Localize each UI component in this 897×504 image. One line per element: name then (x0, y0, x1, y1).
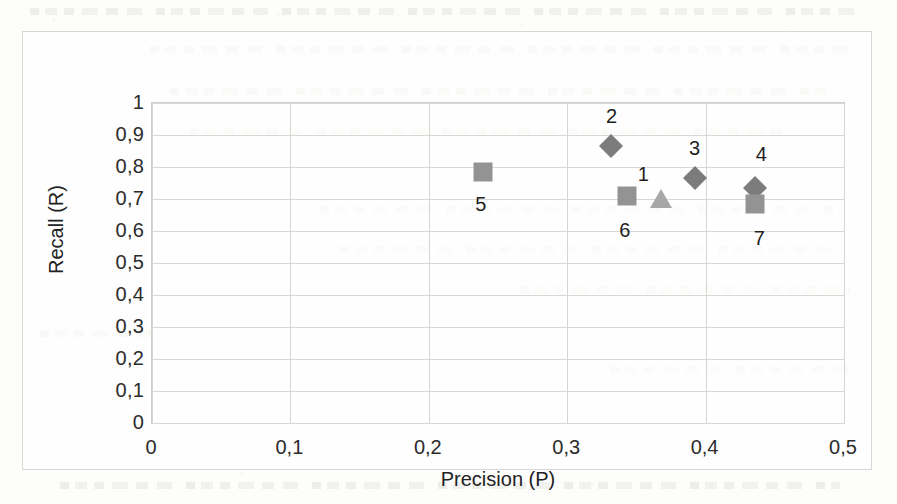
gridline-horizontal (152, 167, 844, 168)
x-axis-tick: 0,5 (803, 436, 883, 459)
y-axis-tick: 0,2 (84, 347, 144, 370)
x-axis-tick: 0,3 (526, 436, 606, 459)
data-point-6 (617, 186, 636, 205)
gridline-vertical (429, 103, 430, 423)
page-bleedthrough-line (30, 8, 860, 15)
data-point-7 (746, 194, 765, 213)
gridline-vertical (706, 103, 707, 423)
y-axis-tick: 0,8 (84, 155, 144, 178)
gridline-horizontal (152, 263, 844, 264)
scanned-page: 00,10,20,30,40,50,60,70,80,91 Recall (R)… (0, 0, 897, 504)
data-point-3 (682, 166, 706, 190)
gridline-horizontal (152, 391, 844, 392)
data-point-2 (599, 134, 623, 158)
data-point-label-4: 4 (756, 143, 767, 166)
data-point-label-6: 6 (619, 218, 630, 241)
x-axis-tick: 0,2 (388, 436, 468, 459)
y-axis-tick: 0,6 (84, 219, 144, 242)
x-axis-tick-labels: 00,10,20,30,40,5 (151, 436, 845, 464)
y-axis-tick-labels: 00,10,20,30,40,50,60,70,80,91 (78, 102, 144, 424)
y-axis-tick: 0 (84, 411, 144, 434)
gridline-horizontal (152, 359, 844, 360)
chart-container: 00,10,20,30,40,50,60,70,80,91 Recall (R)… (22, 31, 872, 470)
gridline-horizontal (152, 103, 844, 104)
data-point-label-5: 5 (475, 193, 486, 216)
data-point-label-2: 2 (606, 104, 617, 127)
data-point-5 (473, 163, 492, 182)
x-axis-title: Precision (P) (151, 468, 845, 491)
gridline-horizontal (152, 327, 844, 328)
y-axis-title: Recall (R) (45, 150, 68, 310)
gridline-horizontal (152, 199, 844, 200)
gridline-vertical (567, 103, 568, 423)
y-axis-tick: 1 (84, 91, 144, 114)
y-axis-tick: 0,4 (84, 283, 144, 306)
x-axis-tick: 0 (111, 436, 191, 459)
y-axis-tick: 0,3 (84, 315, 144, 338)
plot-area: 1234567 (151, 102, 845, 424)
y-axis-tick: 0,9 (84, 123, 144, 146)
data-point-label-7: 7 (754, 226, 765, 249)
gridline-horizontal (152, 423, 844, 424)
data-point-1 (650, 189, 672, 208)
gridline-horizontal (152, 231, 844, 232)
gridline-vertical (844, 103, 845, 423)
y-axis-tick: 0,7 (84, 187, 144, 210)
gridline-vertical (152, 103, 153, 423)
x-axis-tick: 0,1 (249, 436, 329, 459)
gridline-horizontal (152, 135, 844, 136)
gridline-vertical (290, 103, 291, 423)
y-axis-tick: 0,5 (84, 251, 144, 274)
data-point-label-3: 3 (689, 136, 700, 159)
gridline-horizontal (152, 295, 844, 296)
data-point-label-1: 1 (638, 162, 649, 185)
y-axis-tick: 0,1 (84, 379, 144, 402)
x-axis-tick: 0,4 (665, 436, 745, 459)
